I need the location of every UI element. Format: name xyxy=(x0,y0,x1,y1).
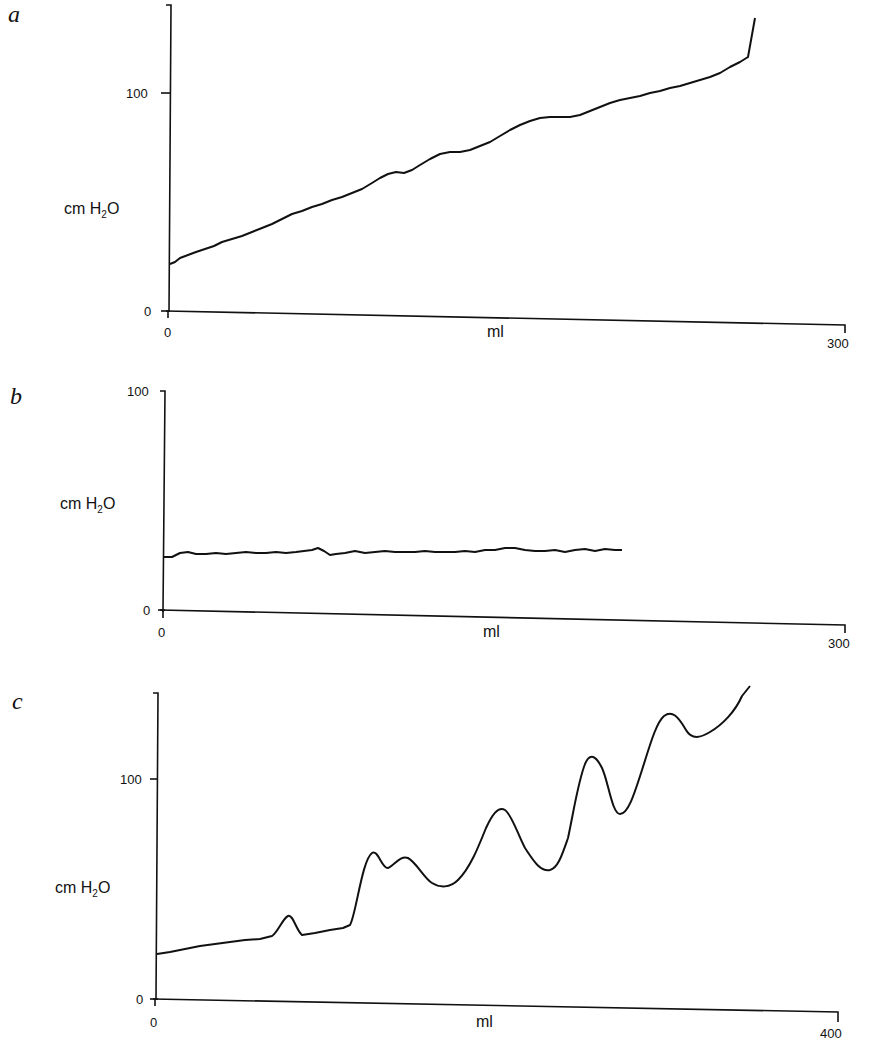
x-tick-label-400-c: 400 xyxy=(820,1026,842,1041)
y-tick-label-100-b: 100 xyxy=(127,384,149,399)
x-tick-label-0-b: 0 xyxy=(158,625,165,640)
y-tick-label-100-c: 100 xyxy=(120,772,142,787)
x-tick-label-300-b: 300 xyxy=(828,636,850,651)
y-tick-label-0-c: 0 xyxy=(136,992,143,1007)
panel-a: a 100 0 0 300 cm H2O ml xyxy=(8,1,849,351)
y-axis-title-a: cm H2O xyxy=(64,200,119,220)
panel-b: b 100 0 0 300 cm H2O ml xyxy=(10,383,850,651)
y-axis-a xyxy=(166,5,171,312)
panel-label-a: a xyxy=(8,1,20,27)
x-axis-a xyxy=(166,311,845,333)
pressure-curve-b xyxy=(163,548,622,557)
x-axis-title-c: ml xyxy=(476,1013,493,1030)
panel-c: c 100 0 0 400 cm H2O ml xyxy=(12,686,842,1041)
x-tick-label-0-c: 0 xyxy=(150,1015,157,1030)
pressure-curve-a xyxy=(170,18,755,264)
y-axis-title-c: cm H2O xyxy=(55,879,110,899)
x-axis-title-b: ml xyxy=(483,623,500,640)
y-axis-title-b: cm H2O xyxy=(60,495,115,515)
pressure-curve-c xyxy=(157,686,750,954)
y-axis-b xyxy=(160,391,165,612)
y-tick-label-100-a: 100 xyxy=(126,86,148,101)
x-axis-title-a: ml xyxy=(487,323,504,340)
panel-label-b: b xyxy=(10,383,22,409)
x-axis-b xyxy=(160,610,845,633)
x-axis-c xyxy=(153,999,838,1022)
y-tick-label-0-a: 0 xyxy=(144,304,151,319)
figure-canvas: a 100 0 0 300 cm H2O ml b 100 0 0 300 cm… xyxy=(0,0,870,1052)
y-tick-label-0-b: 0 xyxy=(143,603,150,618)
x-tick-label-0-a: 0 xyxy=(164,325,171,340)
panel-label-c: c xyxy=(12,688,23,714)
x-tick-label-300-a: 300 xyxy=(827,336,849,351)
